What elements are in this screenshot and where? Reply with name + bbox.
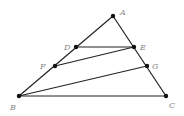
triangle-diagram: A D E F G B C [0,0,184,116]
point-D [74,45,78,49]
label-D: D [63,43,71,52]
point-E [132,45,136,49]
segment-BG [19,66,147,96]
label-G: G [152,62,159,71]
label-A: A [119,8,126,17]
point-F [53,64,57,68]
segment-AC [113,16,166,96]
point-A [111,14,115,18]
label-E: E [139,43,146,52]
point-C [164,94,168,98]
label-C: C [169,101,175,110]
label-F: F [39,62,46,71]
label-B: B [9,103,16,112]
point-G [145,64,149,68]
point-B [17,94,21,98]
